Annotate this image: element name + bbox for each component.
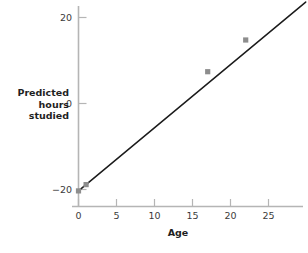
data-point-marker — [243, 37, 248, 42]
regression-line-chart: 20 0 −20 0 5 10 15 20 25 Age Predicted h… — [0, 0, 308, 253]
x-tick-label-15: 15 — [177, 211, 208, 221]
data-point-marker — [205, 69, 210, 74]
y-axis-title-line-1: Predicted — [0, 87, 69, 99]
x-axis-title: Age — [148, 228, 208, 238]
y-axis-title-line-2: hours — [0, 99, 69, 111]
x-tick-label-0: 0 — [63, 211, 94, 221]
y-axis-title: Predicted hours studied — [0, 87, 69, 122]
x-tick-label-20: 20 — [215, 211, 246, 221]
y-axis-title-line-3: studied — [0, 110, 69, 122]
data-point-marker — [84, 182, 89, 187]
y-tick-label-20: 20 — [44, 13, 72, 23]
x-tick-label-5: 5 — [101, 211, 132, 221]
x-tick-label-25: 25 — [253, 211, 284, 221]
y-tick-label-minus-20: −20 — [44, 185, 72, 195]
data-point-marker — [76, 188, 81, 193]
x-tick-label-10: 10 — [139, 211, 170, 221]
regression-line — [79, 2, 306, 191]
